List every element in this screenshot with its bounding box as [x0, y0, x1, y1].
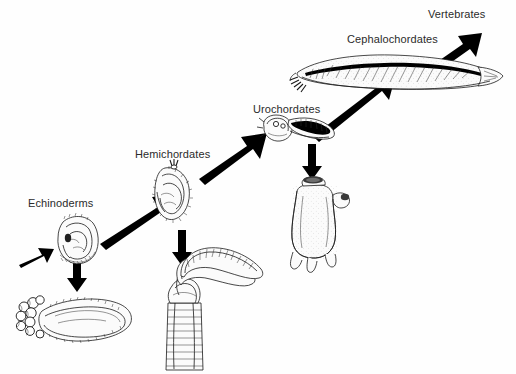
organism-sea-cucumber-holothurian	[16, 296, 131, 343]
organism-tunicate-tadpole-larva	[257, 115, 334, 141]
organism-sea-squirt-ascidian	[290, 176, 349, 272]
label-hemichordates: Hemichordates	[135, 148, 210, 160]
deuterostome-evolution-diagram: .ink { fill: none; stroke: #1a1a1a; stro…	[0, 0, 516, 374]
arrow-origin-to-echinoderms	[19, 248, 54, 268]
label-urochordates: Urochordates	[253, 103, 320, 115]
diagram-canvas: .ink { fill: none; stroke: #1a1a1a; stro…	[0, 0, 516, 374]
label-cephalochordates: Cephalochordates	[347, 33, 438, 45]
arrow-urochordate-larva-to-adult	[302, 144, 322, 180]
organism-lancelet-amphioxus	[290, 55, 503, 92]
label-vertebrates: Vertebrates	[428, 8, 485, 20]
organism-pterobranch-hemichordate	[166, 246, 263, 370]
organism-echinoderm-bipinnaria-larva	[58, 213, 98, 264]
label-echinoderms: Echinoderms	[28, 197, 93, 209]
